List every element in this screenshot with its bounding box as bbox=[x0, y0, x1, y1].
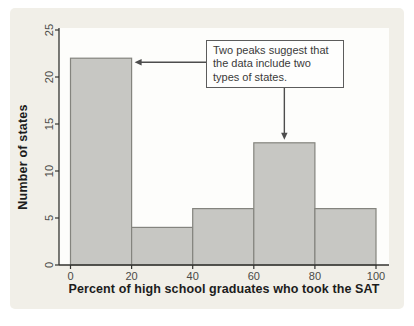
annotation-callout: Two peaks suggest that the data include … bbox=[206, 40, 344, 88]
x-tick-label: 40 bbox=[187, 270, 199, 282]
x-tick-label: 100 bbox=[367, 270, 385, 282]
y-tick-label: 20 bbox=[43, 71, 55, 83]
y-tick-label: 5 bbox=[43, 215, 55, 221]
y-axis-title: Number of states bbox=[16, 29, 32, 285]
y-tick-label: 15 bbox=[43, 118, 55, 130]
figure: 0204060801000510152025 Number of states … bbox=[0, 0, 414, 326]
histogram-bar bbox=[71, 58, 132, 265]
x-tick-label: 0 bbox=[67, 270, 73, 282]
x-tick-label: 20 bbox=[125, 270, 137, 282]
arrowhead-right-peak bbox=[281, 133, 287, 140]
x-tick-label: 80 bbox=[309, 270, 321, 282]
x-tick-label: 60 bbox=[248, 270, 260, 282]
annotation-text: Two peaks suggest that the data include … bbox=[213, 44, 329, 83]
y-tick-label: 10 bbox=[43, 165, 55, 177]
arrowhead-left-peak bbox=[135, 59, 142, 65]
x-axis-title: Percent of high school graduates who too… bbox=[59, 282, 389, 296]
histogram-bar bbox=[254, 143, 315, 265]
histogram-bar bbox=[132, 227, 193, 265]
histogram-bar bbox=[315, 209, 376, 265]
histogram-bar bbox=[193, 209, 254, 265]
y-tick-label: 0 bbox=[43, 262, 55, 268]
y-tick-label: 25 bbox=[43, 24, 55, 36]
